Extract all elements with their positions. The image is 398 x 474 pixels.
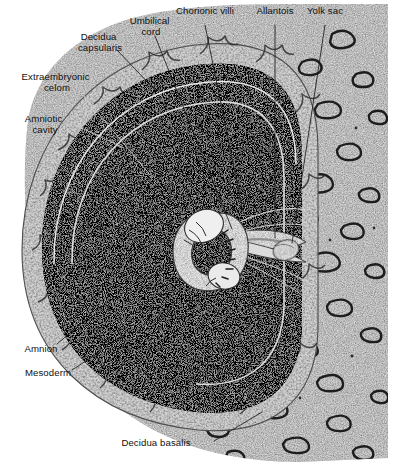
label-allantois: Allantois (256, 5, 293, 16)
label-amnion: Amnion (24, 343, 57, 354)
label-chorionic-villi: Chorionic villi (176, 5, 234, 16)
label-decidua-capsularis: Decidua capsularis (78, 31, 122, 53)
label-yolk-sac: Yolk sac (307, 5, 343, 16)
embryo-in-utero-figure: Decidua capsularis Umbilical cord Chorio… (0, 0, 398, 474)
label-decidua-basalis: Decidua basalis (121, 437, 190, 448)
label-mesoderm: Mesoderm (25, 367, 71, 378)
figure-canvas: Decidua capsularis Umbilical cord Chorio… (0, 0, 398, 474)
